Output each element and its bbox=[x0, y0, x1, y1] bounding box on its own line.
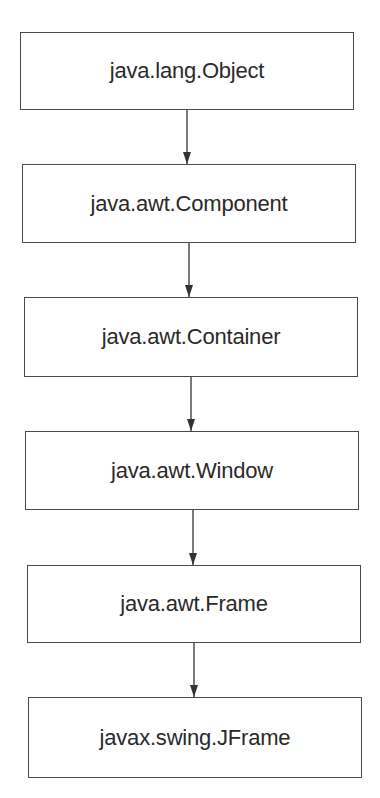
node-java-lang-object: java.lang.Object bbox=[20, 32, 354, 110]
node-label: javax.swing.JFrame bbox=[100, 725, 291, 751]
inheritance-arrows bbox=[0, 0, 380, 798]
node-label: java.awt.Frame bbox=[120, 591, 268, 617]
node-label: java.awt.Window bbox=[111, 458, 273, 484]
node-java-awt-component: java.awt.Component bbox=[22, 164, 356, 243]
node-java-awt-container: java.awt.Container bbox=[24, 297, 358, 377]
node-javax-swing-jframe: javax.swing.JFrame bbox=[28, 697, 362, 778]
node-java-awt-frame: java.awt.Frame bbox=[27, 565, 361, 643]
node-label: java.awt.Container bbox=[102, 324, 281, 350]
node-java-awt-window: java.awt.Window bbox=[25, 431, 359, 510]
node-label: java.lang.Object bbox=[110, 58, 265, 84]
node-label: java.awt.Component bbox=[91, 191, 288, 217]
